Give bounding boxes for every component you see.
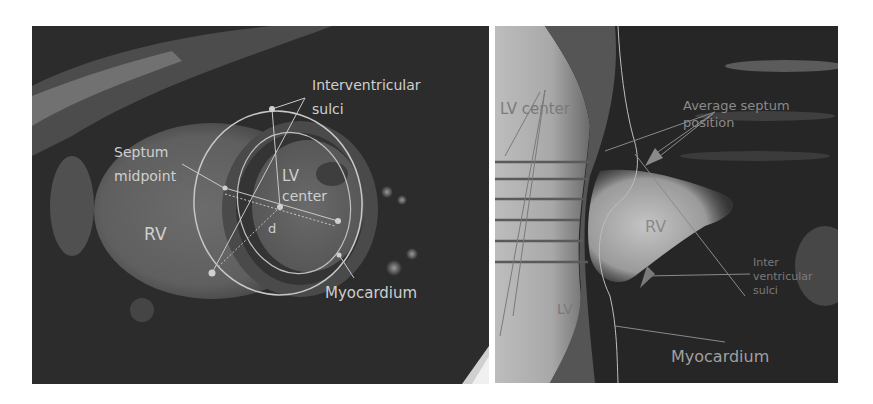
label-midpoint: midpoint (114, 168, 177, 184)
label-lv-center: LV center (500, 100, 571, 118)
label-inter: Inter (753, 256, 779, 269)
label-lv: LV (282, 167, 300, 185)
label-septum: Septum (114, 144, 168, 160)
label-rv: RV (645, 217, 666, 236)
label-interventricular: Interventricular (312, 77, 421, 93)
label-d: d (268, 221, 276, 236)
label-lv: LV (557, 301, 573, 317)
short-axis-mri-panel: Interventricular sulci Septum midpoint L… (32, 26, 489, 384)
label-myocardium: Myocardium (671, 347, 769, 366)
label-myocardium: Myocardium (325, 284, 417, 302)
label-average-septum: Average septum (683, 98, 790, 113)
short-axis-labels: Interventricular sulci Septum midpoint L… (32, 26, 489, 384)
label-position: position (683, 115, 735, 130)
long-axis-labels: LV center Average septum position RV Int… (495, 26, 838, 383)
label-sulci: sulci (753, 284, 778, 297)
label-rv: RV (144, 224, 167, 244)
label-center: center (282, 188, 327, 204)
label-ventricular: ventricular (753, 270, 813, 283)
long-axis-mri-panel: LV center Average septum position RV Int… (495, 26, 838, 383)
label-sulci: sulci (312, 101, 344, 117)
